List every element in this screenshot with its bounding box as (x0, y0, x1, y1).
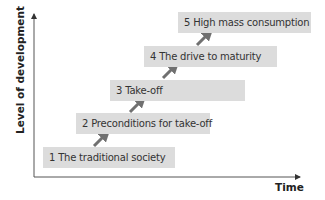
stage-box-4: 4 The drive to maturity (144, 46, 277, 67)
step-arrow-icon (197, 32, 210, 45)
x-axis-label: Time (275, 181, 304, 193)
stage-box-2: 2 Preconditions for take-off (76, 113, 210, 134)
stage-box-5: 5 High mass consumption (178, 12, 311, 33)
step-arrow-icon (94, 133, 107, 146)
y-axis-label: Level of development (14, 6, 26, 134)
stage-box-3: 3 Take-off (110, 80, 245, 101)
development-stages-diagram: Level of development Time 1 The traditio… (0, 0, 325, 200)
stage-box-1: 1 The traditional society (43, 147, 175, 168)
